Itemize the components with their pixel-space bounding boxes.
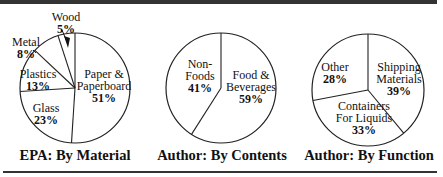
- chart-title-by-contents: Author: By Contents: [151, 147, 293, 164]
- pie-by-function: ShippingMaterials39%ContainersFor Liquid…: [312, 34, 424, 146]
- bottom-rule: [3, 171, 437, 173]
- slice-label: Glass23%: [33, 101, 60, 127]
- chart-title-by-function: Author: By Function: [296, 147, 442, 164]
- slice-label: Wood5%: [52, 10, 80, 36]
- chart-title-by-material: EPA: By Material: [5, 147, 145, 164]
- pie-by-contents: Food &Beverages59%Non-Foods41%: [166, 33, 276, 143]
- slice-label: Non-Foods41%: [185, 57, 215, 95]
- pie-by-material: Paper &Paperboard51%Glass23%Plastics13%M…: [12, 10, 131, 143]
- slice-label: Other28%: [321, 60, 348, 86]
